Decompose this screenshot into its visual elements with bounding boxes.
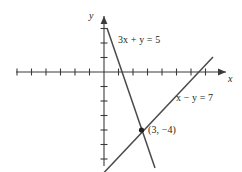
- graph-figure: 3x + y = 5 x − y = 7 (3, −4) x y: [0, 0, 242, 172]
- y-axis-arrowhead: [101, 16, 108, 24]
- line-3x-plus-y-equals-5: [107, 28, 155, 168]
- line-label-x-minus-y-equals-7: x − y = 7: [176, 92, 213, 103]
- x-axis-label: x: [228, 73, 233, 84]
- line-label-3x-plus-y-equals-5: 3x + y = 5: [118, 34, 160, 45]
- line-x-minus-y-equals-7: [98, 57, 213, 172]
- y-axis: [101, 16, 108, 166]
- intersection-point-label: (3, −4): [148, 124, 176, 135]
- x-axis-arrowhead: [218, 69, 226, 76]
- coordinate-plane: [0, 0, 242, 172]
- intersection-point-marker: [139, 127, 144, 132]
- y-axis-label: y: [89, 10, 94, 21]
